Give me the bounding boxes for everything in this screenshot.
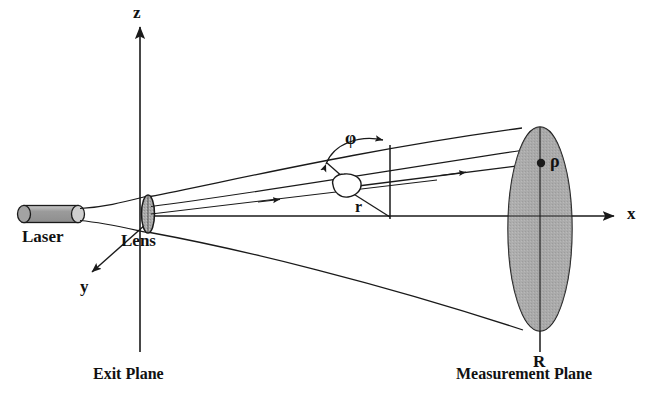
exit-plane-label: Exit Plane bbox=[93, 365, 164, 383]
beam-laser-to-lens bbox=[80, 197, 147, 233]
measurement-plane-label: Measurement Plane bbox=[456, 365, 592, 383]
lens-label: Lens bbox=[121, 231, 156, 251]
beam-envelope-lower bbox=[150, 233, 523, 331]
laser-body bbox=[24, 206, 78, 223]
laser-label: Laser bbox=[22, 227, 64, 247]
axis-label-z: z bbox=[133, 3, 141, 23]
scattered-ray-arrow bbox=[440, 172, 466, 175]
core-ray-lower bbox=[151, 180, 437, 214]
scattering-particle bbox=[333, 174, 361, 197]
rho-dot bbox=[537, 159, 545, 167]
figure-canvas: z x y Laser Lens φ r ρ R Exit Plane Meas… bbox=[0, 0, 661, 405]
r-label: r bbox=[355, 198, 362, 216]
rho-label: ρ bbox=[550, 151, 560, 172]
phi-label: φ bbox=[345, 128, 356, 149]
laser-back-cap bbox=[18, 205, 31, 222]
scattering-diagram-svg bbox=[0, 0, 661, 405]
beam-upper-laser bbox=[80, 197, 146, 209]
particle-blob bbox=[333, 174, 361, 197]
rho-point bbox=[537, 159, 545, 167]
axis-label-y: y bbox=[80, 277, 89, 297]
measurement-plane-disc bbox=[508, 127, 572, 331]
axis-label-x: x bbox=[627, 204, 636, 224]
laser-source bbox=[18, 205, 85, 222]
